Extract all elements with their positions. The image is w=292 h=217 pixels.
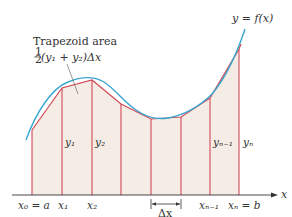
- label-x1: x₁: [58, 199, 68, 211]
- annotation-title: Trapezoid area: [33, 35, 118, 48]
- x-axis-label: x: [281, 188, 288, 201]
- label-y2: y₂: [94, 136, 105, 148]
- trapezoid-fill-region: [32, 49, 239, 195]
- trapezoidal-rule-diagram: x x₀ = a x₁ x₂ xₙ₋₁ xₙ = b y₁ y₂ yₙ₋₁ yₙ…: [0, 0, 292, 217]
- label-xn-1: xₙ₋₁: [199, 199, 219, 211]
- curve-label: y = f(x): [231, 12, 273, 25]
- delta-right-arrow-icon: [176, 202, 180, 205]
- label-xn-b: xₙ = b: [228, 199, 261, 211]
- delta-x-label: Δx: [158, 207, 173, 217]
- label-x2: x₂: [87, 199, 97, 211]
- annotation-formula: (y₁ + y₂)Δx: [41, 51, 102, 64]
- label-yn-1: yₙ₋₁: [212, 136, 233, 148]
- delta-left-arrow-icon: [152, 202, 156, 205]
- label-x0-a: x₀ = a: [18, 199, 50, 211]
- x-axis-arrow-icon: [271, 193, 278, 198]
- label-y1: y₁: [64, 136, 75, 148]
- label-yn: yₙ: [242, 136, 253, 148]
